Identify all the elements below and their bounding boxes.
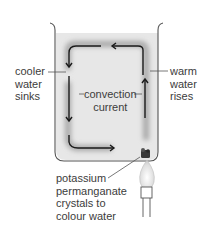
label-potassium-permanganate: potassium permanganate crystals to colou…	[56, 172, 127, 222]
flame-icon	[140, 160, 155, 189]
bunsen-burner	[140, 160, 155, 217]
label-convection-current: convection current	[84, 88, 137, 113]
label-warm-water-rises: warm water rises	[170, 65, 197, 103]
burner-top	[141, 187, 152, 198]
label-cooler-water-sinks: cooler water sinks	[15, 65, 45, 103]
